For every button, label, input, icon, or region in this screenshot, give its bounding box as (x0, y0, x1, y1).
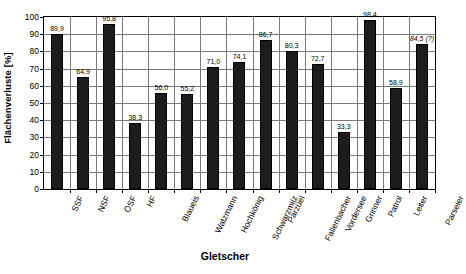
x-tick-mark (96, 189, 97, 193)
bar (103, 24, 115, 189)
x-tick-label: Patrol (385, 194, 404, 218)
y-tick-label: 80 (13, 46, 39, 56)
x-tick-label: Parseier (443, 194, 466, 227)
y-tick-label: 30 (13, 132, 39, 142)
bar (51, 34, 63, 189)
bar (416, 44, 428, 189)
x-tick-label: Leiter (411, 194, 429, 217)
bar (338, 132, 350, 189)
bar (233, 62, 245, 189)
bar-value-label: 33,3 (337, 123, 351, 130)
y-tick-label: 90 (13, 29, 39, 39)
x-tick-mark (409, 189, 410, 193)
bar-value-label: 56,0 (154, 84, 168, 91)
x-tick-label: Hochkönig (239, 194, 266, 234)
bar-slot: 56,0 (148, 17, 174, 189)
x-tick-label: SSF (69, 194, 85, 213)
bar-slot: 86,7 (253, 17, 279, 189)
x-tick-mark (253, 189, 254, 193)
bar (390, 88, 402, 189)
x-tick-mark (279, 189, 280, 193)
y-tick-label: 70 (13, 64, 39, 74)
bar-slot: 33,3 (331, 17, 357, 189)
x-tick-mark (305, 189, 306, 193)
bar-slot: 72,7 (305, 17, 331, 189)
bar-slot: 95,8 (96, 17, 122, 189)
x-tick-mark (148, 189, 149, 193)
bar-slot: 38,3 (122, 17, 148, 189)
bar-value-label: 71,0 (207, 58, 221, 65)
x-tick-mark (383, 189, 384, 193)
bar-value-label: 38,3 (128, 114, 142, 121)
bar (260, 40, 272, 189)
bar-value-label: 84,5 (?) (410, 35, 434, 42)
bar-slot: 98,4 (357, 17, 383, 189)
bar-value-label: 80,3 (285, 42, 299, 49)
x-tick-mark (357, 189, 358, 193)
bar-slot: 71,0 (200, 17, 226, 189)
plot-area: 010203040506070809010089,964,995,838,356… (43, 16, 436, 190)
x-tick-mark (70, 189, 71, 193)
x-tick-mark (174, 189, 175, 193)
bar-slot: 80,3 (279, 17, 305, 189)
bar (207, 67, 219, 189)
x-tick-mark (122, 189, 123, 193)
x-tick-mark (200, 189, 201, 193)
y-tick-label: 40 (13, 115, 39, 125)
bar-value-label: 74,1 (233, 53, 247, 60)
x-axis-title: Gletscher (0, 250, 450, 262)
y-tick-label: 20 (13, 150, 39, 160)
bar-value-label: 58,9 (389, 79, 403, 86)
bar (364, 20, 376, 189)
y-tick-label: 60 (13, 81, 39, 91)
x-tick-label: Blaueis (180, 194, 201, 223)
x-tick-label: HF (145, 194, 159, 209)
bar (155, 93, 167, 189)
y-tick-label: 50 (13, 98, 39, 108)
bar (129, 123, 141, 189)
x-tick-label: Watzmann (213, 194, 240, 235)
bar (286, 51, 298, 189)
bar-slot: 74,1 (226, 17, 252, 189)
x-tick-mark (331, 189, 332, 193)
bar-value-label: 98,4 (363, 11, 377, 18)
y-tick-mark (40, 189, 44, 190)
bar-value-label: 72,7 (311, 55, 325, 62)
bar (312, 64, 324, 189)
bar-value-label: 55,2 (181, 85, 195, 92)
bar (181, 94, 193, 189)
x-tick-mark (435, 189, 436, 193)
bar-slot: 84,5 (?) (409, 17, 435, 189)
bar-slot: 64,9 (70, 17, 96, 189)
bar-slot: 89,9 (44, 17, 70, 189)
y-tick-label: 0 (13, 184, 39, 194)
bar-slot: 55,2 (174, 17, 200, 189)
bar (77, 77, 89, 189)
x-tick-label: ÖSF (122, 194, 139, 214)
x-tick-label: NSF (96, 194, 112, 214)
x-tick-mark (226, 189, 227, 193)
bar-slot: 58,9 (383, 17, 409, 189)
bar-value-label: 86,7 (259, 31, 273, 38)
bar-value-label: 89,9 (50, 25, 64, 32)
y-tick-label: 100 (13, 12, 39, 22)
bar-value-label: 64,9 (76, 68, 90, 75)
y-tick-label: 10 (13, 167, 39, 177)
bar-value-label: 95,8 (102, 15, 116, 22)
